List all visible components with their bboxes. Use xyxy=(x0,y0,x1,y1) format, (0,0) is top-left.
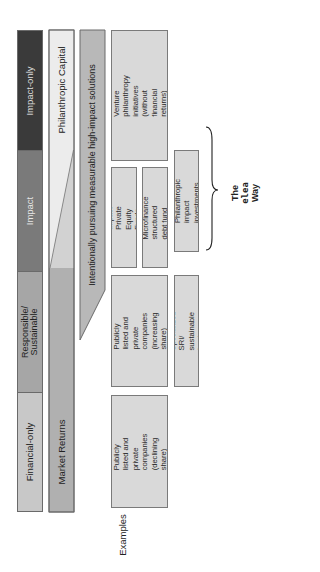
examples-label-wrap: Examples xyxy=(113,510,133,560)
solutions-arrow-label: Intentionally pursuing measurable high-i… xyxy=(88,64,97,286)
solutions-arrow-label-wrap: Intentionally pursuing measurable high-i… xyxy=(80,30,105,320)
example-public-increasing-text: Publicly listed and private companies (i… xyxy=(111,312,168,349)
example-public-declining-text: Publicly listed and private companies (d… xyxy=(111,433,168,470)
elea-way-line3: Way xyxy=(251,182,261,204)
example-philanthropic-impact: Philanthropic impact investments xyxy=(174,150,199,252)
example-public-increasing: Publicly listed and private companies (i… xyxy=(111,275,168,387)
example-public-declining: Publicly listed and private companies (d… xyxy=(111,395,168,508)
elea-way-text: The elea Way xyxy=(231,182,261,204)
philanthropic-capital-label-wrap: Philanthropic Capital xyxy=(49,30,74,150)
example-venture-philanthropy: Venture philanthropy initiatives (withou… xyxy=(111,30,168,161)
philanthropic-capital-label: Philanthropic Capital xyxy=(57,46,67,133)
market-returns-label-wrap: Market Returns xyxy=(49,392,74,512)
elea-way-callout: The elea Way xyxy=(228,170,264,216)
example-sri-text: Specialized SRI/ sustainable funds xyxy=(174,312,199,351)
example-microfinance: Microfinance structured debt fund xyxy=(142,167,168,268)
example-venture-philanthropy-text: Venture philanthropy initiatives (withou… xyxy=(111,75,168,116)
example-sri: Specialized SRI/ sustainable funds xyxy=(174,275,199,387)
examples-label: Examples xyxy=(118,514,128,556)
market-returns-label: Market Returns xyxy=(57,420,67,485)
example-microfinance-text: Microfinance structured debt fund xyxy=(142,196,168,239)
example-impact-pe-text: Impact Private Equity Funds xyxy=(111,206,137,230)
example-philanthropic-impact-text: Philanthropic impact investments xyxy=(174,179,199,223)
example-impact-pe: Impact Private Equity Funds xyxy=(111,167,137,268)
